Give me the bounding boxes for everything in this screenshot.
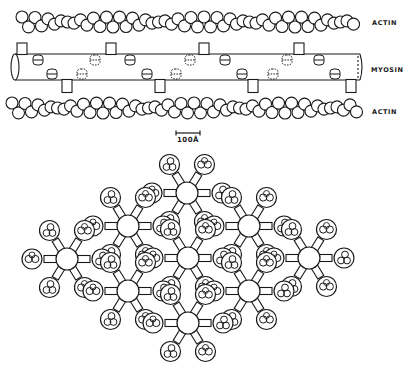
thick-filament <box>56 248 78 270</box>
thick-filament <box>176 182 198 204</box>
crossbridge-arm <box>286 255 299 262</box>
crossbridge-arm <box>165 320 178 327</box>
crossbridge-arm <box>259 223 272 230</box>
crossbridge-arm <box>259 288 272 295</box>
crossbridge-arm <box>77 256 90 263</box>
actin-filament-bottom <box>6 97 363 119</box>
crossbridge-arm <box>44 256 57 263</box>
scale-bar <box>176 131 200 136</box>
cross-section-lattice <box>22 155 354 362</box>
crossbridge-arm <box>198 320 211 327</box>
myosin-tab-down <box>155 80 165 93</box>
crossbridge-arm <box>226 223 239 230</box>
myosin-tab-up <box>106 43 116 55</box>
crossbridge-arm <box>164 190 177 197</box>
label-actin-bottom: ACTIN <box>372 108 397 116</box>
myosin-tab-down <box>346 80 356 93</box>
muscle-filament-diagram <box>0 0 409 375</box>
thick-filament <box>298 247 320 269</box>
thick-filament <box>117 280 139 302</box>
myosin-tab-up <box>199 43 209 55</box>
crossbridge-arm <box>105 223 118 230</box>
thick-filament <box>117 215 139 237</box>
crossbridge-arm <box>138 288 151 295</box>
actin-filament-top <box>16 11 360 33</box>
myosin-filament <box>11 43 362 93</box>
scale-bar-label: 100Å <box>177 136 199 144</box>
crossbridge-arm <box>197 190 210 197</box>
crossbridge-arm <box>165 255 178 262</box>
label-actin-top: ACTIN <box>372 19 397 27</box>
thick-filament <box>238 280 260 302</box>
myosin-tab-down <box>62 80 72 93</box>
thick-filament <box>177 247 199 269</box>
crossbridge-arm <box>198 255 211 262</box>
crossbridge-arm <box>138 223 151 230</box>
crossbridge-arm <box>319 255 332 262</box>
crossbridge-arm <box>226 288 239 295</box>
thick-filament <box>177 312 199 334</box>
label-myosin: MYOSIN <box>371 66 404 74</box>
myosin-tab-down <box>248 80 258 93</box>
crossbridge-arm <box>105 288 118 295</box>
thick-filament <box>238 215 260 237</box>
myosin-tab-up <box>17 43 27 55</box>
myosin-tab-up <box>294 43 304 55</box>
